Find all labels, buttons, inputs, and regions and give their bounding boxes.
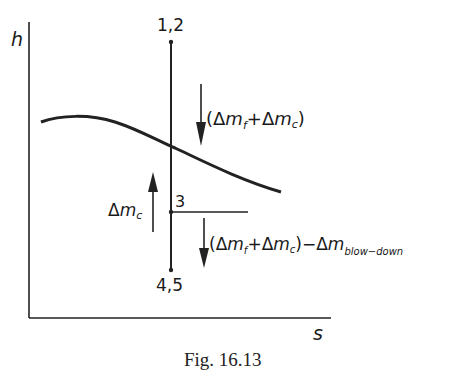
point-4-5: [169, 268, 173, 272]
label-4-5: 4,5: [156, 275, 183, 295]
point-1-2: [169, 40, 173, 44]
arrow-up-icon: [148, 172, 158, 232]
x-axis-label: s: [313, 322, 323, 344]
arrow-down-upper-icon: [196, 84, 206, 146]
label-1-2: 1,2: [157, 15, 184, 35]
y-axis-label: h: [11, 28, 23, 50]
annotation-condensate: Δmc: [108, 200, 142, 222]
annotation-blowdown: (Δmf+Δmc)−Δmblow−down: [209, 234, 403, 257]
label-3: 3: [175, 192, 185, 211]
annotation-feed-plus-condensate: (Δmf+Δmc): [206, 108, 305, 132]
figure-caption: Fig. 16.13: [184, 349, 262, 370]
h-s-diagram: h s 1,2 3 4,5 (Δmf+Δmc) Δmc (Δmf+Δmc)−Δm…: [0, 0, 464, 380]
arrow-down-lower-icon: [199, 218, 209, 268]
